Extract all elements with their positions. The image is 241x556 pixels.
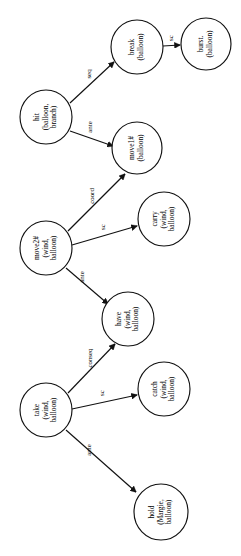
- edge-line: [66, 430, 136, 492]
- graph-node-break[interactable]: break(balloon): [111, 20, 163, 74]
- graph-edge: sc: [72, 390, 137, 409]
- graph-node-take[interactable]: take(wind,balloon): [20, 383, 72, 437]
- graph-node-have[interactable]: have(wind,balloon): [102, 292, 154, 346]
- edge-label: coord: [88, 188, 95, 204]
- edge-label: seq: [85, 69, 92, 79]
- graph-edge: ante: [70, 121, 113, 146]
- node-label-line: balloon): [49, 235, 58, 260]
- edge-line: [68, 174, 125, 231]
- edge-line: [70, 62, 114, 103]
- node-label-line: (balloon): [136, 33, 145, 61]
- graph-edge: coord: [68, 174, 125, 231]
- edge-line: [72, 395, 137, 409]
- edges-layer: seqantesccoordscanteconseqscante: [66, 35, 180, 492]
- node-label-line: branch): [49, 105, 58, 128]
- graph-node-burst[interactable]: burst.(balloon): [181, 18, 231, 70]
- node-label-line: balloon): [164, 499, 173, 524]
- graph-edge: sc: [163, 35, 180, 46]
- edge-label: sc: [99, 224, 106, 230]
- graph-node-carry[interactable]: carry(wind,balloon): [138, 192, 190, 246]
- nodes-layer: hit(balloon,branch)break(balloon)burst.(…: [20, 18, 231, 540]
- graph-edge: seq: [70, 62, 114, 103]
- graph-node-hold[interactable]: hold(Margie,balloon): [134, 484, 188, 540]
- graph-node-move1[interactable]: move1#(balloon): [112, 122, 162, 174]
- edge-label: ante: [86, 121, 93, 132]
- edge-line: [66, 268, 108, 304]
- graph-edge: sc: [72, 224, 137, 245]
- graph-edge: ante: [66, 430, 136, 492]
- edge-label: conseq: [86, 348, 93, 368]
- graph-svg: seqantesccoordscanteconseqscante hit(bal…: [0, 0, 241, 556]
- graph-edge: conseq: [68, 344, 115, 393]
- edge-label: ante: [78, 271, 85, 282]
- edge-label: ante: [85, 444, 92, 455]
- edge-label: sc: [98, 390, 105, 396]
- node-label-line: (balloon): [205, 30, 214, 58]
- graph-node-hit[interactable]: hit(balloon,branch): [20, 90, 72, 144]
- node-label-line: balloon): [49, 397, 58, 422]
- graph-edge: ante: [66, 268, 108, 304]
- edge-line: [163, 45, 180, 46]
- graph-node-move2[interactable]: move2#(wind,balloon): [20, 221, 72, 275]
- node-label-line: (balloon): [136, 134, 145, 162]
- node-label-line: balloon): [131, 306, 140, 331]
- diagram-canvas: seqantesccoordscanteconseqscante hit(bal…: [0, 0, 241, 556]
- edge-label: sc: [167, 35, 174, 41]
- node-label-line: balloon): [167, 376, 176, 401]
- node-label-line: balloon): [167, 206, 176, 231]
- graph-node-catch[interactable]: catch(wind,balloon): [138, 362, 190, 416]
